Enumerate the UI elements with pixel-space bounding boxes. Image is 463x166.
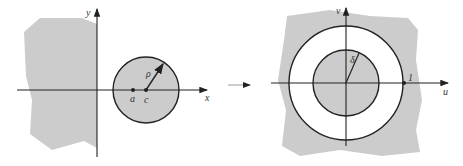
y-axis-label: y: [85, 7, 91, 18]
point-one: [402, 81, 406, 85]
radius-delta-label: δ: [350, 54, 355, 65]
point-c-label: c: [144, 94, 149, 105]
point-a: [131, 88, 135, 92]
right-panel: u v δ 1: [271, 5, 448, 156]
point-c: [144, 88, 148, 92]
v-axis-label: v: [336, 5, 341, 16]
point-a-label: a: [130, 93, 135, 104]
radius-rho-label: ρ: [145, 68, 151, 79]
left-panel: x y a c ρ: [17, 7, 210, 157]
u-axis-label: u: [443, 86, 448, 97]
mapping-diagram: x y a c ρ u v δ 1: [0, 0, 463, 166]
left-halfplane-region: [24, 18, 97, 150]
x-axis-label: x: [204, 92, 210, 103]
point-one-label: 1: [408, 72, 413, 83]
